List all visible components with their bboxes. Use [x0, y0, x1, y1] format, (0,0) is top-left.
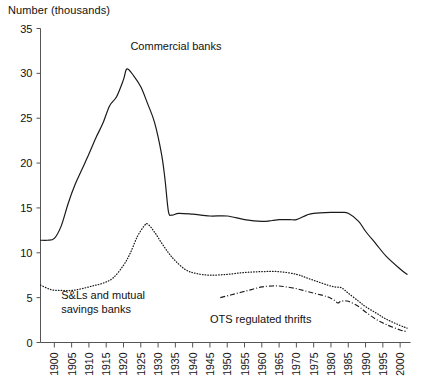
x-tick-label: 1910	[83, 352, 95, 376]
x-tick-label: 1905	[66, 352, 78, 376]
y-tick-label: 0	[26, 337, 32, 349]
y-tick-label: 15	[20, 202, 32, 214]
x-tick-label: 1920	[117, 352, 129, 376]
x-tick-label: 2000	[394, 352, 406, 376]
y-tick-label: 35	[20, 23, 32, 35]
y-tick-label: 10	[20, 247, 32, 259]
series-label: Commercial banks	[130, 40, 222, 52]
series-annotations: Commercial banksS&Ls and mutualsavings b…	[61, 40, 312, 325]
line-chart-plot: 05101520253035 1900190519101915192019251…	[0, 0, 423, 391]
x-tick-label: 1980	[325, 352, 337, 376]
x-tick-label: 1900	[48, 352, 60, 376]
x-tick-label: 1960	[256, 352, 268, 376]
x-tick-label: 1945	[204, 352, 216, 376]
x-tick-label: 1940	[187, 352, 199, 376]
x-tick-label: 1975	[308, 352, 320, 376]
x-tick-label: 1915	[100, 352, 112, 376]
x-tick-label: 1965	[273, 352, 285, 376]
y-tick-label: 5	[26, 292, 32, 304]
y-axis-ticks: 05101520253035	[20, 23, 40, 349]
x-tick-label: 1990	[360, 352, 372, 376]
series-label: savings banks	[61, 303, 131, 315]
series-line	[220, 286, 407, 332]
chart-container: Number (thousands) 05101520253035 190019…	[0, 0, 423, 391]
x-tick-label: 1955	[239, 352, 251, 376]
series-line	[41, 69, 408, 275]
y-tick-label: 30	[20, 67, 32, 79]
y-tick-label: 25	[20, 112, 32, 124]
y-tick-label: 20	[20, 157, 32, 169]
x-tick-label: 1935	[169, 352, 181, 376]
x-tick-label: 1930	[152, 352, 164, 376]
x-tick-label: 1985	[342, 352, 354, 376]
x-tick-label: 1995	[377, 352, 389, 376]
series-label: S&Ls and mutual	[61, 289, 145, 301]
x-axis-ticks: 1900190519101915192019251930193519401945…	[48, 343, 406, 376]
x-tick-label: 1925	[135, 352, 147, 376]
x-tick-label: 1950	[221, 352, 233, 376]
x-tick-label: 1970	[290, 352, 302, 376]
series-label: OTS regulated thrifts	[210, 313, 312, 325]
